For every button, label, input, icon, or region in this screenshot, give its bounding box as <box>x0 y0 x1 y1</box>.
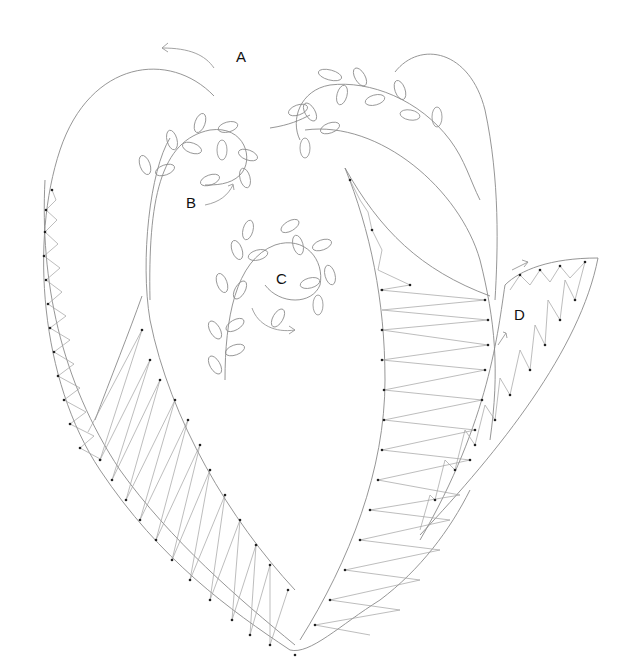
lower-left-band-stitches <box>88 330 288 645</box>
label-d: D <box>514 306 525 323</box>
d-arrow-top <box>512 260 528 270</box>
label-c: C <box>276 270 287 287</box>
right-inner-edge <box>300 168 385 640</box>
vine-c <box>206 217 338 380</box>
outer-right-outline <box>290 490 470 651</box>
right-band-stitches <box>315 180 488 635</box>
label-a: A <box>236 48 246 65</box>
outer-left-outline <box>44 69 290 650</box>
label-b: B <box>186 194 196 211</box>
vine-b <box>137 112 259 300</box>
d-arrow-bottom <box>498 332 507 345</box>
heart-pattern-diagram <box>0 0 628 670</box>
vine-a <box>162 43 480 200</box>
right-top-loop <box>395 54 497 300</box>
right-diagonal <box>345 168 490 296</box>
left-petal-outline <box>95 296 142 420</box>
